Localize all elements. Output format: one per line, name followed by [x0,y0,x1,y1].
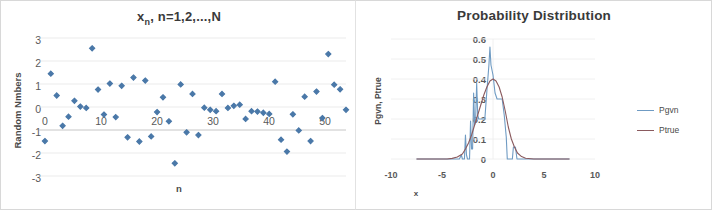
scatter-point [42,138,47,143]
scatter-point [290,112,295,117]
scatter-point [273,79,278,84]
scatter-point [78,104,83,109]
scatter-point [149,134,154,139]
scatter-point [125,135,130,140]
scatter-point [296,128,301,133]
scatter-point [249,109,254,114]
distribution-chart-panel: Probability Distribution Pgvn, Ptrue 0.6… [356,0,712,210]
scatter-point [202,105,207,110]
scatter-point [219,91,224,96]
scatter-point [137,139,142,144]
scatter-point [343,107,348,112]
scatter-point [255,109,260,114]
scatter-point [302,94,307,99]
scatter-point [326,52,331,57]
scatter-point [113,115,118,120]
legend-swatch-ptrue [637,130,654,131]
scatter-point [48,71,53,76]
legend-label-pgvn: Pgvn [659,105,678,115]
scatter-point [237,102,242,107]
scatter-point [231,103,236,108]
legend-swatch-pgvn [637,110,654,111]
scatter-point [190,91,195,96]
scatter-point [320,115,325,120]
scatter-point [166,119,171,124]
legend-item-ptrue: Ptrue [637,125,679,135]
scatter-point [95,87,100,92]
scatter-point [101,112,106,117]
scatter-point [267,111,272,116]
scatter-point [337,87,342,92]
scatter-point [208,107,213,112]
legend-label-ptrue: Ptrue [659,125,679,135]
scatter-point [154,109,159,114]
scatter-point [72,98,77,103]
scatter-point [243,116,248,121]
scatter-point [160,95,165,100]
scatter-point [225,105,230,110]
scatter-point [261,110,266,115]
scatter-point [172,161,177,166]
scatter-point [131,75,136,80]
scatter-point [54,93,59,98]
scatter-point [308,138,313,143]
scatter-point [84,105,89,110]
scatter-point [284,149,289,154]
scatter-point [60,123,65,128]
scatter-point [332,82,337,87]
scatter-point [196,132,201,137]
scatter-chart-panel: xn, n=1,2,...,N Random Nmbers 3 2 1 0 -1… [0,0,356,210]
scatter-point [314,89,319,94]
scatter-point [214,109,219,114]
scatter-point [107,81,112,86]
scatter-point [178,82,183,87]
scatter-point [278,137,283,142]
scatter-point [143,78,148,83]
scatter-point [90,46,95,51]
scatter-plot-area [1,1,357,210]
scatter-point [66,114,71,119]
legend-item-pgvn: Pgvn [637,105,678,115]
two-chart-figure: xn, n=1,2,...,N Random Nmbers 3 2 1 0 -1… [0,0,712,210]
